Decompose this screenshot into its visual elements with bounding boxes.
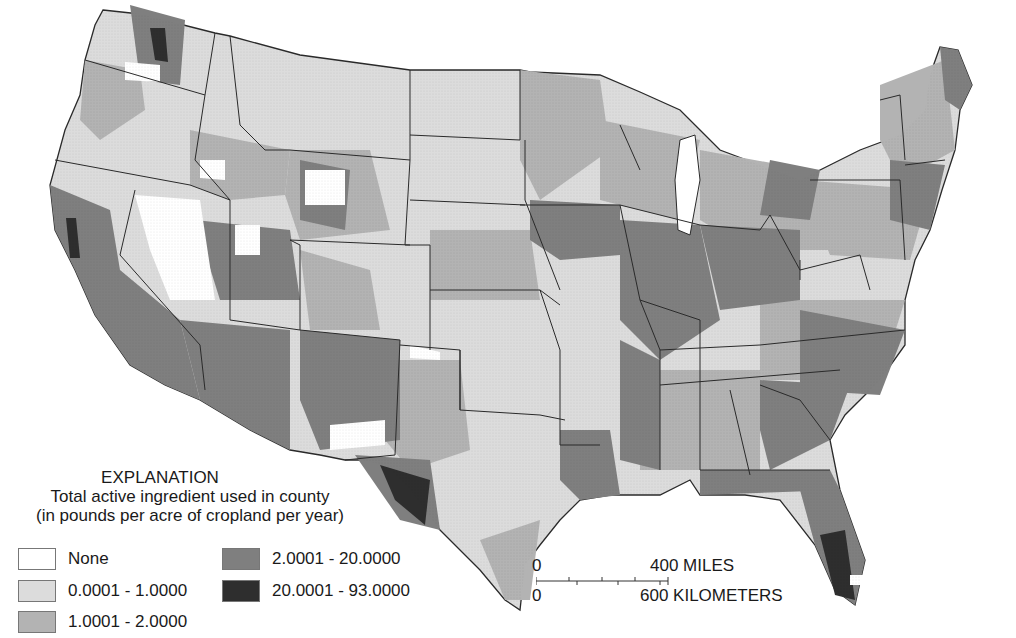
scale-bar: 0 400 MILES 0 600 KILOMETERS — [528, 556, 808, 608]
scale-km-zero: 0 — [532, 586, 541, 606]
us-choropleth-map — [0, 0, 1016, 638]
legend-item-mid: 1.0001 - 2.0000 — [18, 611, 187, 633]
legend-label: None — [68, 549, 109, 569]
legend-label: 1.0001 - 2.0000 — [68, 612, 187, 632]
legend-item-low: 0.0001 - 1.0000 — [18, 580, 187, 602]
legend-swatch-mid — [18, 611, 56, 633]
legend-swatch-very-high — [222, 580, 260, 602]
legend-label: 20.0001 - 93.0000 — [272, 581, 410, 601]
scale-km-label: 600 KILOMETERS — [640, 586, 783, 606]
legend-label: 2.0001 - 20.0000 — [272, 549, 401, 569]
legend-subtitle-2: (in pounds per acre of cropland per year… — [10, 506, 370, 525]
legend-label: 0.0001 - 1.0000 — [68, 581, 187, 601]
legend-swatch-none — [18, 548, 56, 570]
legend-item-none: None — [18, 548, 109, 570]
scale-miles-label: 400 MILES — [650, 556, 734, 576]
legend: EXPLANATION Total active ingredient used… — [0, 468, 460, 525]
legend-item-high: 2.0001 - 20.0000 — [222, 548, 401, 570]
legend-swatch-high — [222, 548, 260, 570]
legend-subtitle-1: Total active ingredient used in county — [10, 487, 370, 506]
legend-item-very-high: 20.0001 - 93.0000 — [222, 580, 410, 602]
scale-miles-zero: 0 — [532, 556, 541, 576]
legend-heading: EXPLANATION — [10, 468, 310, 487]
legend-swatch-low — [18, 580, 56, 602]
